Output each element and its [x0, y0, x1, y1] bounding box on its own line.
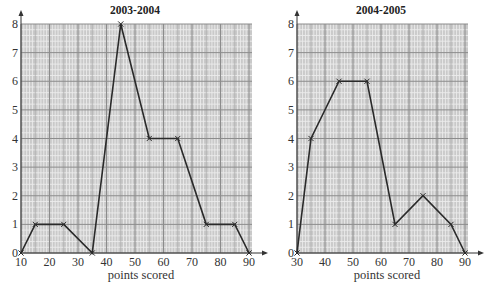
x-axis-label: points scored [108, 268, 175, 282]
y-tick-label: 7 [12, 46, 18, 60]
x-tick-label: 80 [215, 255, 227, 269]
x-tick-label: 80 [431, 255, 443, 269]
x-tick-label: 70 [186, 255, 198, 269]
chart-0-2003-2004: 2003-2004012345678102030405060708090poin… [12, 4, 268, 282]
y-tick-label: 6 [12, 74, 18, 88]
x-tick-label: 60 [375, 255, 387, 269]
y-tick-label: 8 [288, 17, 294, 31]
x-axis-arrow-icon [478, 251, 484, 256]
chart-title: 2003-2004 [110, 4, 160, 16]
y-axis-arrow-icon [295, 10, 300, 16]
x-axis-arrow-icon [262, 251, 268, 256]
y-tick-label: 4 [12, 132, 18, 146]
x-tick-label: 30 [291, 255, 303, 269]
x-tick-label: 20 [44, 255, 56, 269]
y-tick-label: 2 [288, 189, 294, 203]
x-tick-label: 90 [243, 255, 255, 269]
y-tick-label: 7 [288, 46, 294, 60]
y-tick-label: 6 [288, 74, 294, 88]
x-axis-label: points scored [354, 268, 421, 282]
chart-title: 2004-2005 [356, 4, 406, 16]
x-tick-label: 60 [158, 255, 170, 269]
y-tick-label: 1 [288, 217, 294, 231]
x-tick-label: 50 [347, 255, 359, 269]
y-tick-label: 3 [288, 160, 294, 174]
x-tick-label: 40 [101, 255, 113, 269]
x-tick-label: 90 [459, 255, 471, 269]
x-tick-label: 30 [72, 255, 84, 269]
y-tick-label: 3 [12, 160, 18, 174]
x-tick-label: 50 [129, 255, 141, 269]
y-tick-label: 5 [288, 103, 294, 117]
x-tick-label: 10 [15, 255, 27, 269]
y-tick-label: 1 [12, 217, 18, 231]
y-tick-label: 5 [12, 103, 18, 117]
y-tick-label: 2 [12, 189, 18, 203]
x-tick-label: 40 [319, 255, 331, 269]
y-tick-label: 4 [288, 132, 294, 146]
frequency-polygon-figure: 2003-2004012345678102030405060708090poin… [0, 0, 484, 283]
x-tick-label: 70 [403, 255, 415, 269]
chart-1-2004-2005: 2004-200501234567830405060708090points s… [288, 4, 484, 282]
y-axis-arrow-icon [19, 10, 24, 16]
y-tick-label: 8 [12, 17, 18, 31]
